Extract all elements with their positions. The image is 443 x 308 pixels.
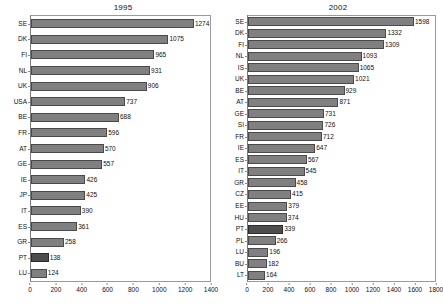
bar-rows-1995: SE1274DK1075FI965NL931UK906USA737BE688FR… (31, 16, 210, 281)
bar-row: HU374 (248, 212, 435, 224)
bar-row: DK1332 (248, 28, 435, 40)
x-axis-tick: 1000 (152, 283, 166, 294)
plot-area-2002: SE1598DK1332FI1309NL1093IS1065UK1021BE92… (247, 15, 436, 282)
category-label: FI (21, 52, 27, 59)
category-label: PL (236, 237, 244, 244)
category-label: LU (19, 270, 27, 277)
bar: 458 (248, 178, 296, 187)
category-label: FR (18, 130, 27, 137)
bar: 965 (31, 50, 154, 59)
bar-row: NL931 (31, 63, 210, 79)
bar-value-label: 965 (155, 52, 166, 59)
category-label: GR (17, 239, 27, 246)
bar-value-label: 545 (306, 168, 317, 175)
bar: 545 (248, 167, 305, 176)
bar-row: USA737 (31, 94, 210, 110)
bar-row: IE647 (248, 143, 435, 155)
bar-row: UK1021 (248, 74, 435, 86)
x-axis-tick: 1800 (429, 283, 443, 294)
bar-value-label: 929 (346, 88, 357, 95)
category-label: FR (235, 134, 244, 141)
bar-value-label: 931 (151, 67, 162, 74)
category-label: IS (238, 65, 244, 72)
bar-row: LU124 (31, 266, 210, 282)
bar-row: SI726 (248, 120, 435, 132)
bar-row: GE557 (31, 156, 210, 172)
bar-row: JP425 (31, 188, 210, 204)
category-label: SE (18, 21, 27, 28)
bar-value-label: 1274 (195, 21, 209, 28)
category-label: AT (236, 99, 244, 106)
chart-title-2002: 2002 (221, 3, 441, 12)
bar-row: SE1274 (31, 16, 210, 32)
bar-value-label: 266 (277, 237, 288, 244)
bar: 688 (31, 113, 119, 122)
category-label: BU (235, 260, 244, 267)
bar: 425 (31, 191, 85, 200)
bar-value-label: 138 (50, 254, 61, 261)
bar: 567 (248, 155, 307, 164)
category-label: IE (21, 176, 27, 183)
bar-value-label: 390 (82, 208, 93, 215)
bar-row: BE929 (248, 85, 435, 97)
bar-value-label: 426 (86, 176, 97, 183)
bar: 196 (248, 248, 268, 257)
bar: 182 (248, 259, 267, 268)
bar-value-label: 871 (339, 99, 350, 106)
category-label: CZ (235, 191, 244, 198)
category-label: ES (235, 157, 244, 164)
category-label: ES (18, 223, 27, 230)
bar-value-label: 1021 (355, 76, 369, 83)
bar: 258 (31, 238, 64, 247)
x-axis-tick: 1200 (178, 283, 192, 294)
bar-row: PT339 (248, 223, 435, 235)
category-label: IT (21, 208, 27, 215)
category-label: IT (238, 168, 244, 175)
bar: 374 (248, 213, 287, 222)
x-axis-tick: 1200 (366, 283, 380, 294)
bar: 361 (31, 222, 77, 231)
bar-value-label: 196 (269, 249, 280, 256)
category-label: PT (236, 226, 244, 233)
bar: 426 (31, 175, 85, 184)
category-label: NL (236, 53, 244, 60)
category-label: NL (19, 67, 27, 74)
bar-value-label: 339 (284, 226, 295, 233)
x-axis-tick: 200 (50, 283, 61, 294)
bar-value-label: 557 (103, 161, 114, 168)
chart-title-1995: 1995 (0, 3, 220, 12)
bar-value-label: 124 (48, 270, 59, 277)
x-axis-tick: 0 (245, 283, 249, 294)
bar: 266 (248, 236, 276, 245)
bar-row: NL1093 (248, 51, 435, 63)
x-axis-tick: 1400 (204, 283, 218, 294)
bar: 124 (31, 269, 47, 278)
bar-value-label: 1598 (415, 19, 429, 26)
bar-rows-2002: SE1598DK1332FI1309NL1093IS1065UK1021BE92… (248, 16, 435, 281)
bar: 1332 (248, 29, 386, 38)
bar: 390 (31, 206, 81, 215)
bar: 1274 (31, 19, 194, 28)
bar-row: IT390 (31, 203, 210, 219)
category-label: DK (235, 30, 244, 37)
bar-row: IT545 (248, 166, 435, 178)
bar-row: GR258 (31, 234, 210, 250)
bar-row: CZ415 (248, 189, 435, 201)
bar: 570 (31, 144, 104, 153)
bar-value-label: 1309 (385, 42, 399, 49)
bar-row: IE426 (31, 172, 210, 188)
x-axis-tick: 600 (102, 283, 113, 294)
category-label: IE (238, 145, 244, 152)
bar-value-label: 737 (126, 99, 137, 106)
category-label: GR (234, 180, 244, 187)
x-axis-tick: 400 (284, 283, 295, 294)
x-axis-tick: 400 (76, 283, 87, 294)
bar-value-label: 596 (108, 130, 119, 137)
bar: 415 (248, 190, 291, 199)
bar-value-label: 1065 (360, 65, 374, 72)
bar-row: BU182 (248, 258, 435, 270)
bar-value-label: 425 (86, 192, 97, 199)
x-axis-1995: 0200400600800100012001400 (30, 283, 211, 299)
bar-row: ES567 (248, 154, 435, 166)
bar-row: DK1075 (31, 32, 210, 48)
